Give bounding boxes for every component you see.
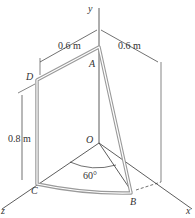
dim-vertical: 0.8 m <box>8 133 31 144</box>
point-d: D <box>26 71 33 82</box>
z-label: z <box>1 205 5 216</box>
dim-top-right: 0.6 m <box>118 40 141 51</box>
point-b: B <box>130 196 136 207</box>
point-a: A <box>89 58 95 69</box>
point-c: C <box>31 185 38 196</box>
frame-drawing <box>0 0 195 218</box>
x-axis <box>99 143 192 209</box>
point-o: O <box>86 134 93 145</box>
angle-label: 60° <box>83 170 97 181</box>
x-label: x <box>186 205 190 216</box>
diagram: y z x A D C B O 0.6 m 0.6 m 0.8 m 60° <box>0 0 195 218</box>
y-label: y <box>88 3 92 14</box>
dim-top-left: 0.6 m <box>58 40 81 51</box>
